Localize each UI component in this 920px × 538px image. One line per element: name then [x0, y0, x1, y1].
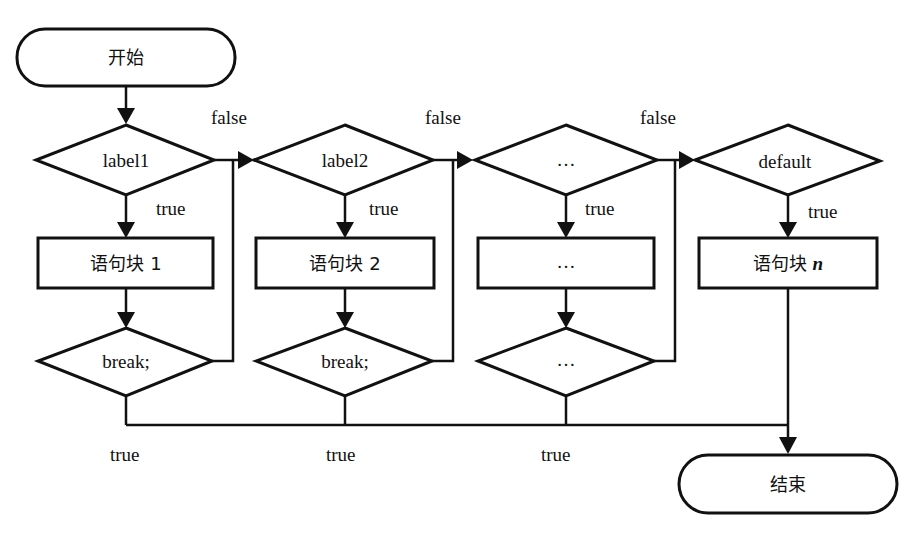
true-label-1: true	[156, 198, 186, 219]
arrowhead-icon	[557, 312, 575, 328]
block-n-var: n	[813, 253, 824, 274]
exit-true-label-3: true	[541, 444, 571, 465]
decision-ellipsis: …	[475, 125, 657, 195]
break-decision-ellipsis: …	[478, 328, 654, 396]
arrowhead-icon	[117, 222, 135, 238]
end-terminal: 结束	[679, 455, 897, 513]
break-decision-2: break;	[256, 328, 432, 396]
block-n-prefix: 语句块	[753, 253, 813, 274]
decision-label1: label1	[36, 125, 214, 195]
false-label-3: false	[640, 107, 676, 128]
exit-true-label-1: true	[110, 444, 140, 465]
arrowhead-icon	[557, 222, 575, 238]
arrowhead-icon	[779, 222, 797, 238]
true-label-default: true	[808, 201, 838, 222]
svg-text:break;: break;	[102, 351, 149, 372]
arrowhead-icon	[117, 108, 135, 124]
break-decision-1: break;	[38, 328, 212, 396]
block-n: 语句块 n	[699, 238, 877, 288]
false-label-2: false	[425, 107, 461, 128]
decision-label2: label2	[254, 125, 433, 195]
svg-text:label2: label2	[322, 150, 368, 171]
true-label-3: true	[585, 198, 615, 219]
block-1: 语句块 1	[38, 238, 213, 288]
arrowhead-icon	[336, 222, 354, 238]
exit-true-label-2: true	[326, 444, 356, 465]
false-label-1: false	[211, 107, 247, 128]
svg-text:default: default	[759, 151, 812, 172]
arrowhead-icon	[779, 437, 797, 454]
break-false-return-1	[212, 160, 233, 361]
arrowhead-icon	[117, 312, 135, 328]
svg-text:label1: label1	[103, 150, 149, 171]
break-false-return-3	[654, 160, 675, 361]
svg-text:语句块 2: 语句块 2	[309, 253, 380, 274]
svg-text:…: …	[557, 251, 576, 272]
block-2: 语句块 2	[256, 238, 434, 288]
decision-default: default	[695, 125, 880, 195]
svg-text:…: …	[557, 149, 576, 170]
svg-text:语句块 1: 语句块 1	[90, 253, 161, 274]
arrowhead-icon	[457, 151, 473, 169]
arrowhead-icon	[336, 312, 354, 328]
start-label: 开始	[108, 47, 144, 68]
switch-flowchart: 开始 label1 true 语句块 1 break; false true l…	[0, 0, 920, 538]
svg-text:…: …	[557, 349, 576, 370]
block-n-label: 语句块 n	[753, 253, 823, 274]
start-terminal: 开始	[17, 29, 235, 86]
svg-text:break;: break;	[321, 351, 368, 372]
block-ellipsis: …	[478, 238, 654, 288]
end-label: 结束	[770, 474, 806, 495]
true-label-2: true	[369, 198, 399, 219]
